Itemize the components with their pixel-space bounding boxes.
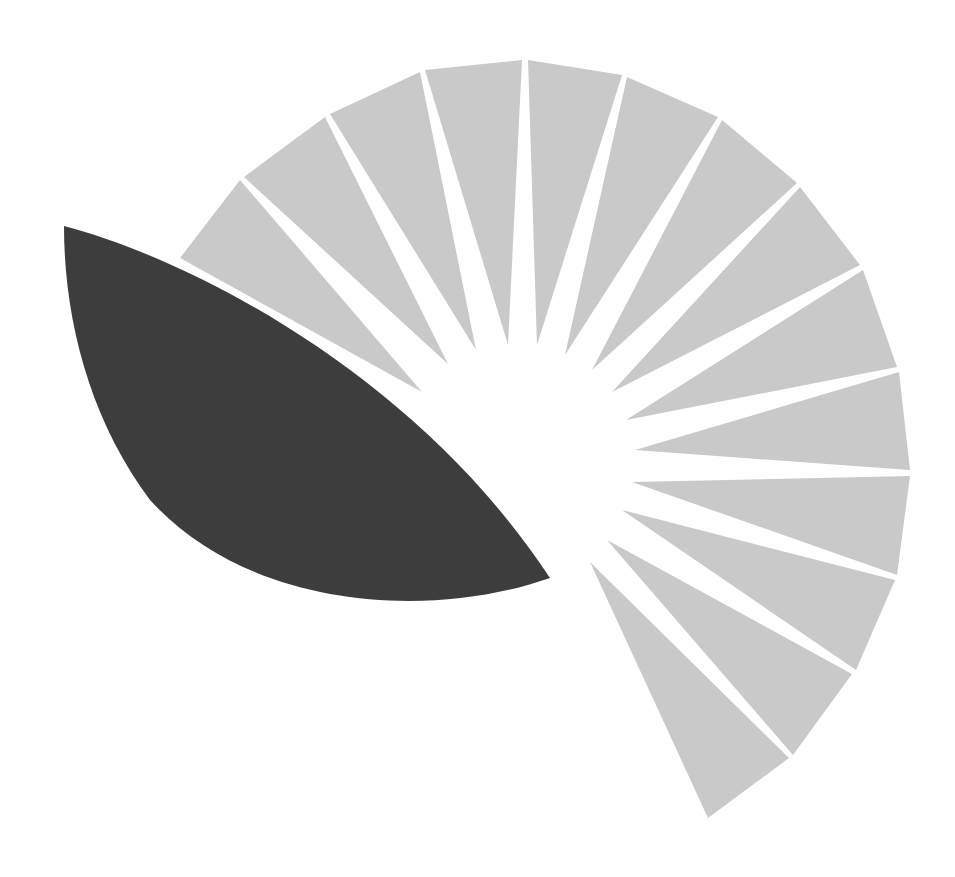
- sunburst-leaf-logo: [0, 0, 955, 877]
